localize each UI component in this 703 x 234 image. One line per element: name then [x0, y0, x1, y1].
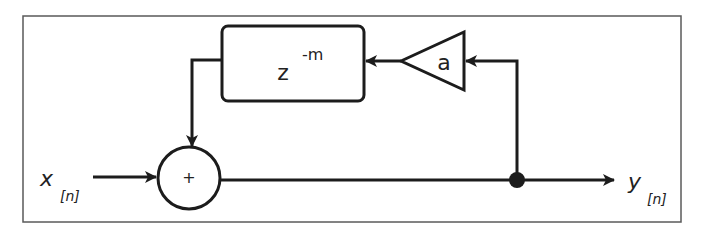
svg-text:x: x	[39, 166, 54, 191]
delay-exponent: -m	[302, 45, 323, 64]
svg-text:y: y	[627, 169, 642, 194]
plus-symbol: +	[182, 168, 195, 187]
delay-base: z	[277, 60, 289, 85]
summing-junction: +	[158, 147, 220, 209]
delay-block: z -m	[222, 26, 364, 101]
svg-text:[n]: [n]	[60, 188, 80, 204]
comb-filter-diagram: x [n] + y [n] a z -m	[0, 0, 703, 234]
gain-label: a	[437, 50, 450, 75]
svg-text:[n]: [n]	[647, 191, 667, 207]
